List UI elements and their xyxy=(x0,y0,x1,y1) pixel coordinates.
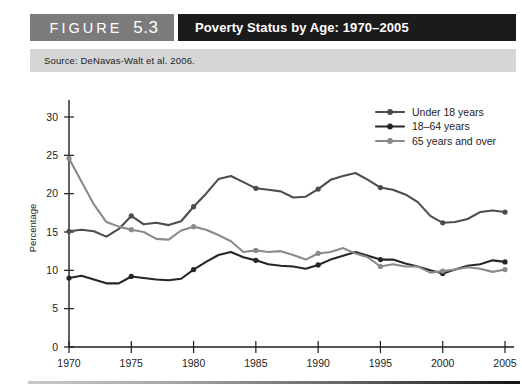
chart-legend: Under 18 years18–64 years65 years and ov… xyxy=(376,106,497,147)
data-point-marker xyxy=(253,186,258,191)
data-point-marker xyxy=(191,204,196,209)
data-point-marker xyxy=(129,227,134,232)
y-tick-label: 20 xyxy=(46,187,58,199)
legend-marker xyxy=(387,124,393,130)
data-point-marker xyxy=(378,257,383,262)
data-point-marker xyxy=(502,267,507,272)
data-point-marker xyxy=(378,185,383,190)
x-tick-label: 1995 xyxy=(369,357,393,368)
data-point-marker xyxy=(316,186,321,191)
x-tick-label: 1980 xyxy=(182,357,206,368)
bottom-divider xyxy=(28,381,520,384)
series-line xyxy=(69,158,505,272)
data-point-marker xyxy=(191,224,196,229)
x-tick-label: 2000 xyxy=(431,357,455,368)
data-point-marker xyxy=(440,220,445,225)
y-tick-label: 15 xyxy=(46,226,58,238)
data-point-marker xyxy=(316,262,321,267)
data-point-marker xyxy=(316,251,321,256)
legend-item-label: 65 years and over xyxy=(412,135,497,147)
y-tick-label: 10 xyxy=(46,264,58,276)
line-chart: Percentage 051015202530 1970197519801985… xyxy=(0,78,522,368)
figure-number-tag: FIGURE 5.3 xyxy=(30,14,174,41)
data-point-marker xyxy=(129,274,134,279)
y-axis-title: Percentage xyxy=(27,204,38,253)
series-line xyxy=(69,252,505,283)
legend-marker xyxy=(387,138,393,144)
legend-item-label: 18–64 years xyxy=(412,120,470,132)
x-tick-label: 1990 xyxy=(306,357,330,368)
figure-number: 5.3 xyxy=(133,18,158,38)
figure-container: FIGURE 5.3 Poverty Status by Age: 1970–2… xyxy=(0,0,522,391)
y-tick-label: 5 xyxy=(52,302,58,314)
data-point-marker xyxy=(191,267,196,272)
data-point-marker xyxy=(66,229,71,234)
x-tick-label: 1975 xyxy=(120,357,144,368)
page-title: Poverty Status by Age: 1970–2005 xyxy=(178,20,409,35)
source-citation: Source: DeNavas-Walt et al. 2006. xyxy=(30,55,195,66)
source-strip: Source: DeNavas-Walt et al. 2006. xyxy=(30,49,516,72)
data-point-marker xyxy=(378,264,383,269)
y-tick-label: 30 xyxy=(46,111,58,123)
data-point-marker xyxy=(66,275,71,280)
y-tick-label: 0 xyxy=(52,341,58,353)
data-point-marker xyxy=(502,209,507,214)
figure-header: FIGURE 5.3 Poverty Status by Age: 1970–2… xyxy=(30,14,516,41)
data-point-marker xyxy=(253,248,258,253)
legend-marker xyxy=(387,109,393,115)
y-tick-label: 25 xyxy=(46,149,58,161)
x-tick-label: 2005 xyxy=(493,357,517,368)
series-line xyxy=(69,173,505,237)
data-point-marker xyxy=(502,259,507,264)
x-tick-label: 1985 xyxy=(244,357,268,368)
chart-area: Percentage 051015202530 1970197519801985… xyxy=(0,78,522,368)
x-tick-label: 1970 xyxy=(57,357,81,368)
figure-label: FIGURE xyxy=(46,20,123,36)
data-point-marker xyxy=(66,156,71,161)
figure-title-bar: Poverty Status by Age: 1970–2005 xyxy=(178,14,516,41)
x-axis-ticks: 19701975198019851990199520002005 xyxy=(57,341,517,368)
data-series-group xyxy=(66,156,507,284)
data-point-marker xyxy=(440,269,445,274)
legend-item-label: Under 18 years xyxy=(412,106,484,118)
data-point-marker xyxy=(253,258,258,263)
data-point-marker xyxy=(129,213,134,218)
